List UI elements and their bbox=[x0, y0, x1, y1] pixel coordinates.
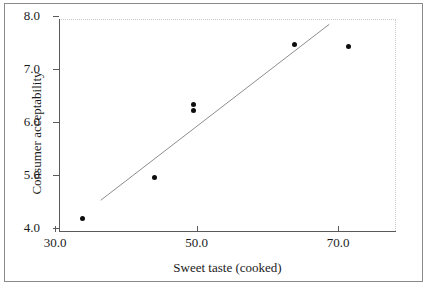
data-point bbox=[191, 108, 196, 113]
x-tick-label: 70.0 bbox=[308, 236, 368, 249]
data-point bbox=[152, 175, 157, 180]
data-point bbox=[292, 42, 297, 47]
x-tick-label: 50.0 bbox=[167, 236, 227, 249]
x-tick-mark bbox=[55, 226, 56, 232]
y-axis-line bbox=[59, 19, 60, 232]
figure-frame: 4.05.06.07.08.0 30.050.070.0 Consumer ac… bbox=[4, 3, 423, 282]
y-tick-label: 8.0 bbox=[0, 9, 40, 22]
plot-area bbox=[59, 19, 396, 231]
x-axis-title: Sweet taste (cooked) bbox=[59, 260, 396, 276]
y-tick-mark bbox=[53, 69, 59, 70]
y-tick-mark bbox=[53, 122, 59, 123]
x-tick-mark bbox=[338, 226, 339, 232]
y-tick-mark bbox=[53, 228, 59, 229]
y-axis-title: Consumer acceptability bbox=[29, 43, 45, 223]
x-tick-mark bbox=[197, 226, 198, 232]
x-axis-line bbox=[59, 231, 396, 232]
x-tick-label: 30.0 bbox=[25, 236, 85, 249]
y-tick-mark bbox=[53, 16, 59, 17]
y-tick-mark bbox=[53, 175, 59, 176]
